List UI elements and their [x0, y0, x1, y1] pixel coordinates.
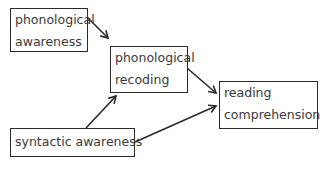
- node-label: phonological: [15, 9, 87, 31]
- node-label: awareness: [15, 31, 87, 53]
- edge-syntactic-to-reading-comp: [135, 106, 216, 142]
- node-phonological-awareness: phonological awareness: [10, 8, 88, 52]
- node-label: recoding: [115, 69, 187, 91]
- node-syntactic-awareness: syntactic awareness: [10, 128, 135, 157]
- node-label: comprehension: [224, 104, 317, 126]
- node-label: reading: [224, 82, 317, 104]
- node-label: syntactic awareness: [15, 129, 134, 155]
- node-reading-comprehension: reading comprehension: [219, 81, 318, 129]
- node-label: phonological: [115, 47, 187, 69]
- node-phonological-recoding: phonological recoding: [110, 46, 188, 93]
- edge-phon-recoding-to-reading-comp: [187, 68, 216, 93]
- edge-syntactic-to-phon-recoding: [86, 96, 116, 128]
